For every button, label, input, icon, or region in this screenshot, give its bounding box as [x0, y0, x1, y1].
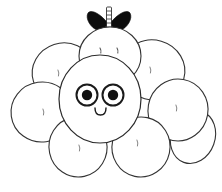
central-face-group	[59, 55, 141, 143]
eye-right-pupil	[108, 90, 118, 100]
eye-left-pupil	[82, 90, 92, 100]
berry-character-artwork	[0, 0, 222, 192]
illustration-canvas	[0, 0, 222, 192]
face-body	[59, 55, 141, 143]
